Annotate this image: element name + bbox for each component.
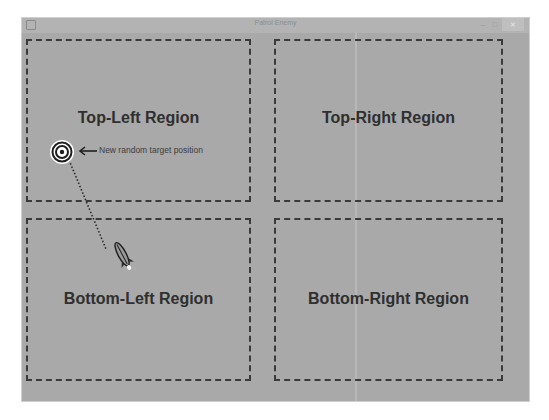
close-button[interactable]: ✕ bbox=[502, 18, 524, 31]
bullseye-target-icon bbox=[49, 139, 75, 165]
game-window: Patrol Enemy – □ ✕ Top-Left Region Top-R… bbox=[21, 17, 530, 402]
title-bar[interactable]: Patrol Enemy – □ ✕ bbox=[22, 18, 529, 33]
window-title: Patrol Enemy bbox=[22, 19, 529, 26]
minimize-button[interactable]: – bbox=[477, 18, 489, 31]
maximize-button[interactable]: □ bbox=[489, 18, 501, 31]
rocket-ship-icon bbox=[108, 239, 138, 273]
target-annotation: New random target position bbox=[99, 145, 203, 155]
arrow-left-icon bbox=[78, 146, 98, 156]
patrol-path bbox=[22, 33, 529, 401]
game-canvas[interactable]: Top-Left Region Top-Right Region Bottom-… bbox=[22, 33, 529, 401]
